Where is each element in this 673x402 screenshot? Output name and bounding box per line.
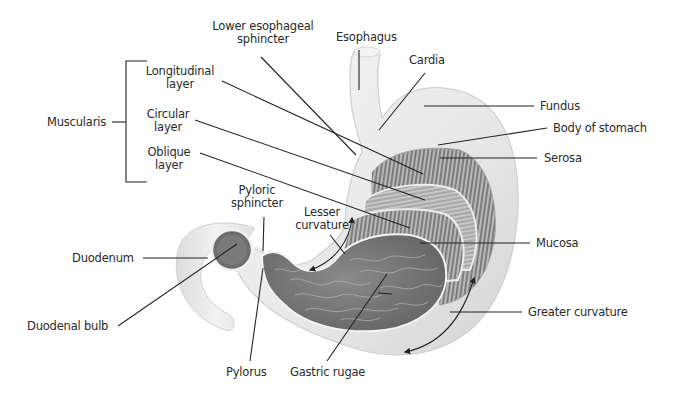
label-line-2: sphincter — [227, 197, 287, 210]
label-body-of-stomach: Body of stomach — [553, 122, 647, 135]
label-fundus: Fundus — [540, 100, 580, 113]
label-circular-layer: Circular layer — [140, 108, 196, 134]
label-pylorus: Pylorus — [226, 366, 267, 379]
label-lesser-curvature: Lesser curvature — [290, 206, 354, 232]
label-serosa: Serosa — [544, 152, 582, 165]
label-lower-esophageal-sphincter: Lower esophageal sphincter — [200, 20, 326, 46]
label-cardia: Cardia — [409, 54, 445, 67]
label-muscularis: Muscularis — [47, 116, 106, 129]
stomach-diagram: Lower esophageal sphincter Esophagus Car… — [0, 0, 673, 402]
label-longitudinal-layer: Longitudinal layer — [140, 65, 220, 91]
label-duodenal-bulb: Duodenal bulb — [27, 320, 108, 333]
label-esophagus: Esophagus — [336, 31, 397, 44]
stomach-illustration — [0, 0, 673, 402]
label-line-2: layer — [140, 78, 220, 91]
label-pyloric-sphincter: Pyloric sphincter — [227, 184, 287, 210]
label-line-2: curvature — [290, 219, 354, 232]
label-greater-curvature: Greater curvature — [528, 306, 628, 319]
label-line-2: sphincter — [200, 33, 326, 46]
label-oblique-layer: Oblique layer — [141, 146, 197, 172]
label-line-2: layer — [141, 159, 197, 172]
label-gastric-rugae: Gastric rugae — [290, 366, 365, 379]
label-duodenum: Duodenum — [72, 252, 134, 265]
label-line-2: layer — [140, 121, 196, 134]
label-mucosa: Mucosa — [536, 237, 578, 250]
